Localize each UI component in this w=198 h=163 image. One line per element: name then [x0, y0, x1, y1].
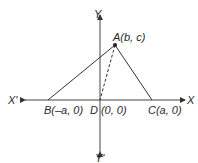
coordinate-diagram: Y Y' X' X A(b, c) B(–a, 0) D(0, 0) C(a, … — [0, 0, 198, 163]
point-c-label: C(a, 0) — [148, 104, 182, 116]
segment-ab — [48, 45, 115, 100]
x-prime-axis-label: X' — [7, 94, 18, 106]
point-a-dot — [113, 43, 117, 47]
segment-ad-median — [100, 45, 115, 100]
y-prime-axis-label: Y' — [95, 152, 105, 163]
point-b-label: B(–a, 0) — [44, 104, 83, 116]
point-a-label: A(b, c) — [112, 31, 146, 43]
point-d-label: D(0, 0) — [90, 104, 127, 116]
y-axis-label: Y — [94, 8, 102, 20]
segment-ac — [115, 45, 152, 100]
x-axis-label: X — [186, 94, 195, 106]
